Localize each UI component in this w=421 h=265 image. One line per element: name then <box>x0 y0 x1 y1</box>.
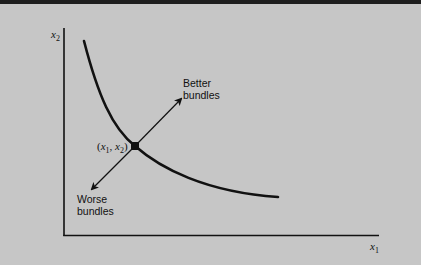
y-axis-label: x2 <box>51 28 60 45</box>
better-bundles-line1: Better <box>183 77 220 89</box>
better-bundles-arrow <box>135 99 181 146</box>
indifference-curve <box>84 41 278 197</box>
worse-bundles-line2: bundles <box>77 205 114 217</box>
bundle-point-marker <box>131 142 139 150</box>
diagram-canvas <box>0 0 421 265</box>
x-axis-label-subscript: 1 <box>375 246 379 255</box>
bundle-point-label: (x1, x2) <box>97 140 128 157</box>
worse-bundles-line1: Worse <box>77 193 114 205</box>
y-axis-label-subscript: 2 <box>56 34 60 43</box>
better-bundles-label: Better bundles <box>183 77 220 101</box>
x-axis-label: x1 <box>370 240 379 257</box>
worse-bundles-label: Worse bundles <box>77 193 114 217</box>
better-bundles-line2: bundles <box>183 89 220 101</box>
indifference-curve-figure: x2 x1 (x1, x2) Better bundles Worse bund… <box>0 0 421 265</box>
point-label-close-paren: ) <box>124 140 128 152</box>
